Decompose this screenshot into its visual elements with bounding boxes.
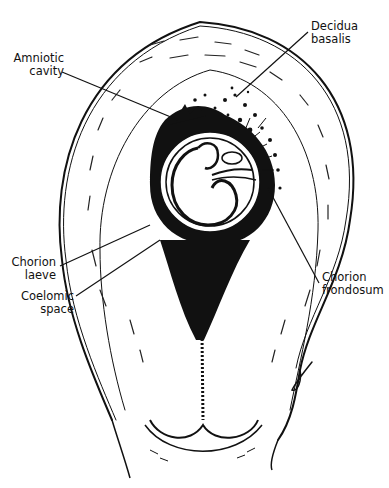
- label-amniotic-cavity-line2: cavity: [8, 65, 64, 78]
- label-amniotic-cavity: Amniotic cavity: [8, 52, 64, 78]
- label-decidua-basalis-line2: basalis: [311, 33, 358, 46]
- coelomic-space-region: [160, 240, 250, 340]
- label-chorion-laeve: Chorion laeve: [6, 256, 56, 282]
- label-decidua-basalis: Decidua basalis: [311, 20, 358, 46]
- label-chorion-frondosum: Chorion frondosum: [322, 271, 384, 297]
- cervix: [112, 335, 278, 478]
- label-coelomic-space-line2: space: [12, 303, 74, 316]
- embryo: [160, 132, 260, 232]
- label-chorion-laeve-line2: laeve: [6, 269, 56, 282]
- label-chorion-frondosum-line2: frondosum: [322, 284, 384, 297]
- label-coelomic-space: Coelomic space: [12, 290, 74, 316]
